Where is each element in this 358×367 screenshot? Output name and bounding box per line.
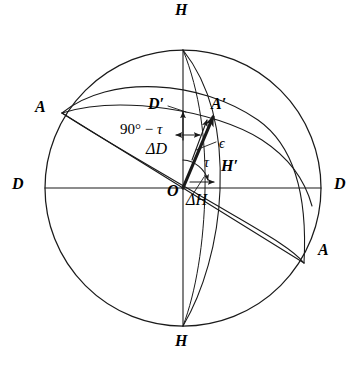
diagram-canvas (0, 0, 358, 367)
complement-tau-prefix: 90° − (120, 121, 157, 137)
label-d-prime: D′ (148, 96, 164, 112)
primed-axis-vector (183, 117, 213, 188)
label-epsilon: ϵ (219, 137, 225, 151)
label-a-prime: A′ (211, 96, 226, 112)
complement-tau-symbol: τ (157, 121, 162, 137)
label-delta-h: ΔH (186, 192, 207, 208)
label-h-top: H (175, 2, 187, 18)
spherical-diagram-figure: H H D D A A D′ A′ H′ O ϵ τ ΔD ΔH 90° − τ (0, 0, 358, 367)
label-h-bottom: H (175, 333, 187, 349)
label-d-right: D (334, 176, 346, 192)
label-origin: O (167, 183, 179, 199)
label-h-prime: H′ (221, 158, 238, 174)
label-d-left: D (12, 176, 24, 192)
label-a-right: A (318, 242, 329, 258)
label-tau: τ (204, 156, 209, 170)
label-delta-d: ΔD (146, 141, 167, 157)
label-complement-tau: 90° − τ (120, 122, 162, 137)
label-a-left: A (35, 99, 46, 115)
epsilon-leader-line (196, 142, 216, 150)
